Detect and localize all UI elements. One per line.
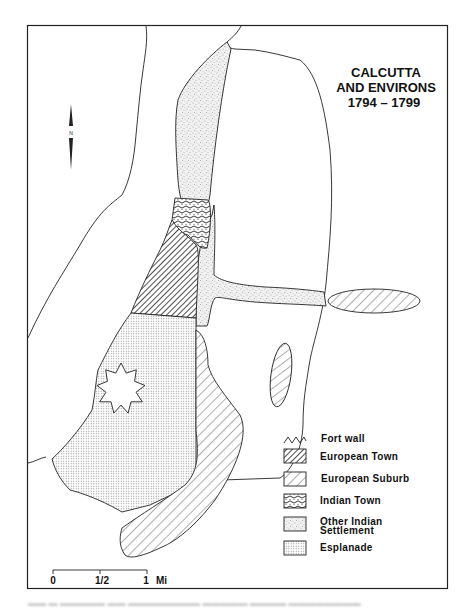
legend-item-indian-town: Indian Town — [284, 494, 381, 508]
sparse-hatch-swatch-icon — [284, 472, 306, 486]
dense-hatch-swatch-icon — [284, 449, 306, 463]
title-line-2: AND ENVIRONS — [336, 80, 436, 95]
svg-text:Settlement: Settlement — [320, 525, 374, 536]
legend-item-european-suburb: European Suburb — [284, 472, 409, 486]
scale-tick-0: 0 — [50, 575, 56, 586]
title-line-3: 1794 – 1799 — [348, 95, 420, 110]
svg-text:Fort wall: Fort wall — [321, 433, 365, 444]
north-label: N — [69, 130, 73, 136]
dot-grid-swatch-icon — [284, 541, 306, 555]
illegible-caption: ▬▬ ▬ ▬▬▬▬▬ ▬▬ ▬▬▬▬▬▬▬▬ ▬▬▬▬▬ ▬▬▬▬ ▬▬▬▬▬▬… — [28, 598, 448, 608]
legend-item-european-town: European Town — [284, 449, 398, 463]
scale-tick-half: 1/2 — [95, 575, 109, 586]
scale-tick-1: 1 — [143, 575, 149, 586]
svg-text:Indian Town: Indian Town — [320, 495, 381, 506]
svg-text:Esplanade: Esplanade — [320, 542, 373, 553]
svg-text:European Town: European Town — [320, 451, 398, 462]
legend-item-esplanade: Esplanade — [284, 541, 373, 555]
stipple-swatch-icon — [284, 517, 306, 531]
title-line-1: CALCUTTA — [351, 65, 421, 80]
svg-text:European Suburb: European Suburb — [321, 473, 409, 484]
scale-unit: Mi — [156, 575, 167, 586]
region-european-suburb-east — [328, 289, 420, 313]
wavy-dots-swatch-icon — [284, 494, 306, 508]
map-figure: N CALCUTTA AND ENVIRONS 1794 – 1799 Fort… — [0, 0, 471, 611]
